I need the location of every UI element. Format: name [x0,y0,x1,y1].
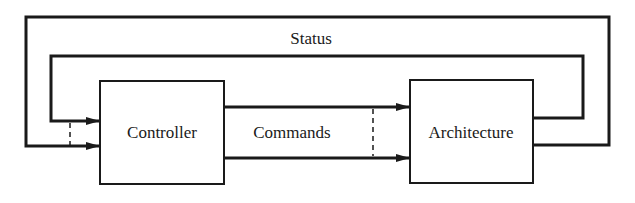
status-label: Status [290,29,332,48]
architecture-label: Architecture [429,123,514,142]
control-diagram: Controller Architecture Commands Status [0,0,635,203]
commands-label: Commands [253,123,330,142]
controller-label: Controller [127,123,197,142]
